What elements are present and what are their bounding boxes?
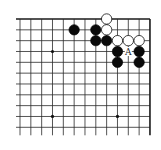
- go-board: A: [0, 0, 161, 150]
- star-point: [116, 115, 119, 118]
- white-stone: [134, 35, 144, 45]
- white-stone: [101, 25, 111, 35]
- black-stone: [112, 46, 122, 56]
- star-point: [51, 50, 54, 53]
- white-stone: [101, 14, 111, 24]
- black-stone: [134, 46, 144, 56]
- black-stone: [91, 25, 101, 35]
- black-stone: [112, 57, 122, 67]
- black-stone: [91, 35, 101, 45]
- point-label: A: [124, 47, 132, 57]
- black-stone: [134, 57, 144, 67]
- labels-layer: A: [124, 47, 132, 57]
- white-stone: [123, 35, 133, 45]
- black-stone: [69, 25, 79, 35]
- black-stone: [101, 35, 111, 45]
- white-stone: [112, 35, 122, 45]
- star-point: [51, 115, 54, 118]
